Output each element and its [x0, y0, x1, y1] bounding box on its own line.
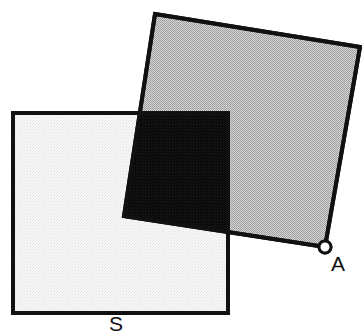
figure-canvas: A S	[0, 0, 362, 334]
geometry-diagram: A S	[0, 0, 362, 334]
label-a: A	[331, 252, 345, 275]
vertex-marker-a-cy-helper	[319, 241, 331, 253]
label-s: S	[109, 312, 123, 334]
